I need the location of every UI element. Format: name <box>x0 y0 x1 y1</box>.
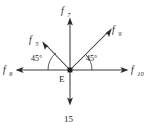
angle-label-right: 45° <box>86 54 97 63</box>
arrowhead-f9 <box>105 28 112 37</box>
force-ray-load15 <box>67 70 73 106</box>
vertex-node-E <box>68 68 73 73</box>
arrowhead-f5 <box>42 41 48 50</box>
force-label-f10: f 10 <box>131 65 144 77</box>
force-line-f9 <box>70 32 109 71</box>
force-label-f7-subscript: 7 <box>67 11 71 18</box>
force-label-f6: f 6 <box>3 65 13 77</box>
force-label-f5: f 5 <box>29 35 38 47</box>
force-label-f9-base: f <box>112 25 116 35</box>
force-diagram-container: f 7 f 9 f 5 f 6 f 10 15 45° 45° E <box>0 0 152 130</box>
force-label-f5-subscript: 5 <box>35 40 38 47</box>
force-ray-f7 <box>67 18 73 71</box>
angle-arc-left <box>48 53 56 70</box>
force-label-f5-base: f <box>29 35 33 45</box>
force-label-f10-subscript: 10 <box>137 70 144 77</box>
angle-label-left: 45° <box>31 54 42 63</box>
force-label-f7: f 7 <box>61 6 71 18</box>
vertex-label-E: E <box>59 74 65 84</box>
force-label-f6-subscript: 6 <box>9 70 13 77</box>
force-label-f7-base: f <box>61 6 65 16</box>
force-line-f5 <box>46 45 71 71</box>
force-label-f9-subscript: 9 <box>118 30 122 37</box>
force-label-load15: 15 <box>64 114 74 124</box>
force-label-f6-base: f <box>3 65 7 75</box>
force-ray-f5 <box>42 41 70 70</box>
force-diagram-canvas: f 7 f 9 f 5 f 6 f 10 15 45° 45° E <box>0 0 152 130</box>
force-ray-f10 <box>70 67 129 73</box>
force-ray-f6 <box>16 67 71 73</box>
force-label-f9: f 9 <box>112 25 122 37</box>
force-label-f10-base: f <box>131 65 135 75</box>
